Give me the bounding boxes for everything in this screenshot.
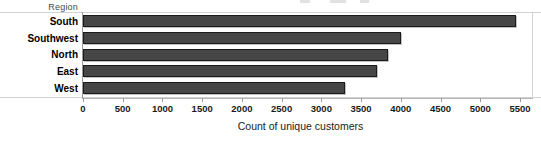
x-tick [83, 98, 84, 102]
bar-row-list: SouthSouthwestNorthEastWest [0, 13, 541, 97]
x-tick-label: 3500 [351, 103, 372, 114]
bar-row[interactable]: North [0, 47, 541, 64]
x-tick [321, 98, 322, 102]
bar-row[interactable]: Southwest [0, 30, 541, 47]
bar[interactable] [83, 32, 401, 44]
x-tick-label: 4500 [430, 103, 451, 114]
x-axis-title: Count of unique customers [0, 120, 541, 132]
bar-chart: Region SouthSouthwestNorthEastWest 05001… [0, 0, 541, 148]
bar-track [83, 30, 533, 47]
x-axis-line [82, 98, 533, 99]
x-tick-label: 1500 [192, 103, 213, 114]
bar-track [83, 13, 533, 30]
x-tick [361, 98, 362, 102]
x-tick-label: 5000 [470, 103, 491, 114]
category-label: East [0, 63, 78, 80]
x-tick-label: 0 [80, 103, 85, 114]
x-tick [202, 98, 203, 102]
x-tick [520, 98, 521, 102]
cropped-title-fragment [300, 0, 310, 3]
x-tick-label: 1000 [152, 103, 173, 114]
bar[interactable] [83, 49, 388, 61]
x-tick-label: 4000 [390, 103, 411, 114]
x-tick-label: 3000 [311, 103, 332, 114]
x-tick [441, 98, 442, 102]
bar-track [83, 63, 533, 80]
x-tick [282, 98, 283, 102]
bar-row[interactable]: West [0, 80, 541, 97]
x-tick [242, 98, 243, 102]
bar[interactable] [83, 15, 516, 27]
category-label: Southwest [0, 30, 78, 47]
x-tick [162, 98, 163, 102]
x-tick-label: 500 [115, 103, 131, 114]
x-tick [123, 98, 124, 102]
cropped-title-fragment [360, 0, 369, 3]
bar-track [83, 80, 533, 97]
x-tick-label: 2500 [271, 103, 292, 114]
category-label: North [0, 47, 78, 64]
category-label: South [0, 13, 78, 30]
bar-row[interactable]: East [0, 63, 541, 80]
x-tick [401, 98, 402, 102]
x-tick [480, 98, 481, 102]
field-header-region: Region [0, 1, 82, 12]
bar-track [83, 47, 533, 64]
bar-row[interactable]: South [0, 13, 541, 30]
bar[interactable] [83, 82, 345, 94]
cropped-title-fragment [330, 0, 346, 3]
x-tick-label: 5500 [509, 103, 530, 114]
x-tick-label: 2000 [231, 103, 252, 114]
x-axis-title-text: Count of unique customers [238, 120, 364, 132]
category-label: West [0, 80, 78, 97]
bar[interactable] [83, 65, 377, 77]
